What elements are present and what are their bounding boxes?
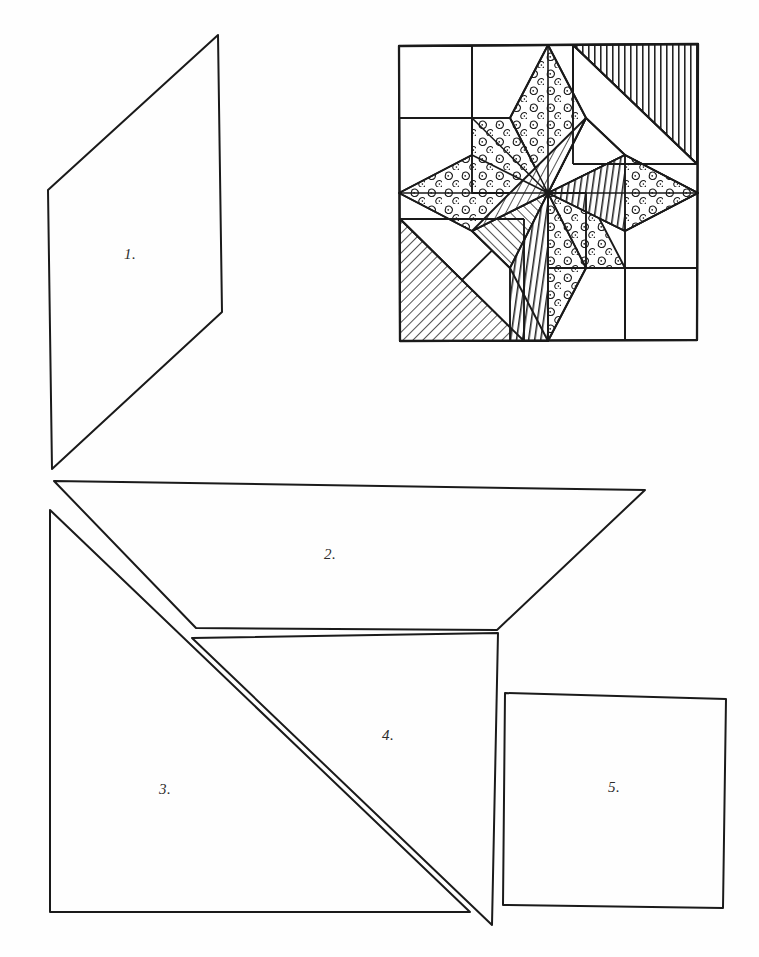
piece-5-label: 5. <box>608 779 620 796</box>
piece-4-label: 4. <box>382 727 394 744</box>
corner-square-top-left <box>399 46 472 118</box>
pattern-sheet <box>0 0 759 957</box>
piece-2-label: 2. <box>324 546 336 563</box>
piece-1-label: 1. <box>124 246 136 263</box>
piece-3-label: 3. <box>159 781 171 798</box>
corner-square-bottom-right <box>625 268 697 340</box>
eight-pointed-star-block <box>399 44 698 341</box>
